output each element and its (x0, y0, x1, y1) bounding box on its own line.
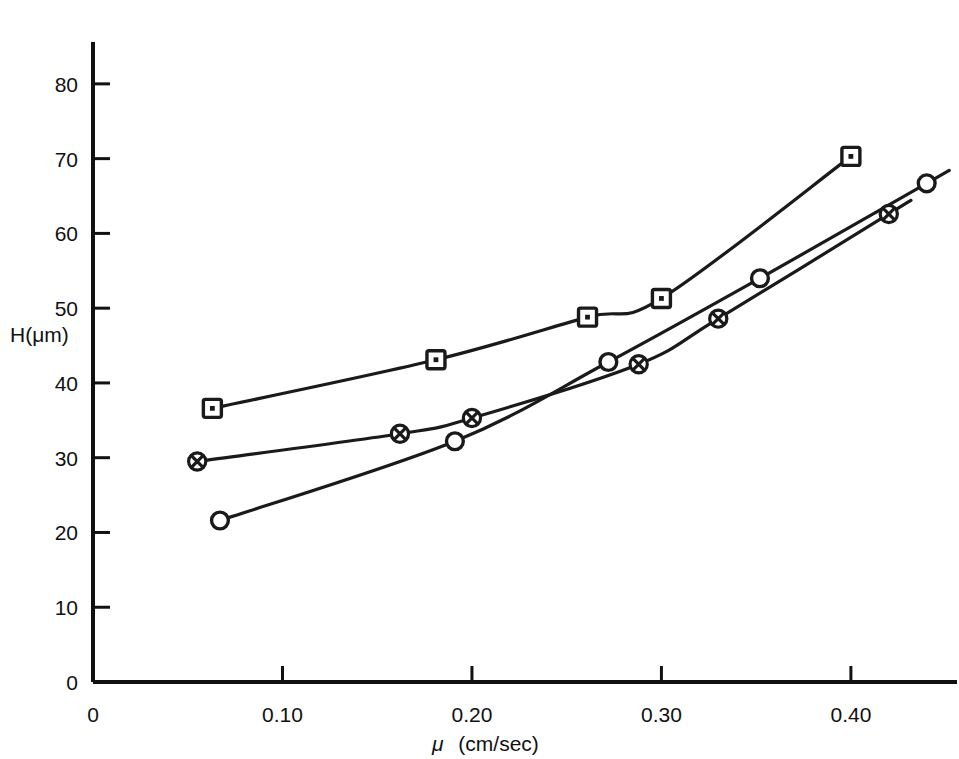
data-point-crossed-circle[interactable] (391, 425, 408, 442)
x-axis-tick-label: 0.30 (641, 703, 682, 726)
y-axis-tick-label: 70 (55, 148, 78, 171)
y-axis-tick-label: 0 (66, 671, 78, 694)
y-axis-tick-label: 30 (55, 447, 78, 470)
data-point-crossed-circle[interactable] (710, 310, 727, 327)
y-axis-tick-label: 40 (55, 372, 78, 395)
data-point-square-dot[interactable] (427, 351, 445, 369)
y-axis-tick-label: 10 (55, 596, 78, 619)
y-axis-tick-label: 80 (55, 73, 78, 96)
data-point-open-circle[interactable] (446, 433, 463, 450)
square-marker-center-dot (210, 406, 215, 411)
open-circle-marker (212, 512, 229, 529)
data-point-open-circle[interactable] (212, 512, 229, 529)
square-marker-center-dot (659, 296, 664, 301)
data-point-square-dot[interactable] (203, 399, 221, 417)
data-point-crossed-circle[interactable] (463, 409, 480, 426)
plot-background (0, 0, 959, 759)
data-point-crossed-circle[interactable] (880, 205, 897, 222)
y-axis-tick-label: 50 (55, 297, 78, 320)
square-marker-center-dot (848, 154, 853, 159)
y-axis-tick-labels: 01020304050607080 (55, 73, 78, 694)
open-circle-marker (446, 433, 463, 450)
y-axis-title: H(μm) (10, 323, 69, 346)
square-marker-center-dot (434, 357, 439, 362)
y-axis-tick-label: 60 (55, 222, 78, 245)
data-point-open-circle[interactable] (600, 354, 617, 371)
x-axis-title: μ (cm/sec) (431, 732, 539, 755)
x-axis-tick-label: 0.40 (830, 703, 871, 726)
data-point-square-dot[interactable] (579, 308, 597, 326)
data-point-crossed-circle[interactable] (630, 356, 647, 373)
x-axis-tick-label: 0 (87, 703, 99, 726)
y-axis-tick-label: 20 (55, 521, 78, 544)
data-point-crossed-circle[interactable] (189, 453, 206, 470)
data-point-square-dot[interactable] (652, 289, 670, 307)
open-circle-marker (918, 175, 935, 192)
data-point-square-dot[interactable] (842, 147, 860, 165)
square-marker-center-dot (585, 315, 590, 320)
x-axis-tick-label: 0.20 (452, 703, 493, 726)
data-point-open-circle[interactable] (752, 270, 769, 287)
data-point-open-circle[interactable] (918, 175, 935, 192)
x-axis-title-symbol: μ (431, 732, 444, 755)
open-circle-marker (752, 270, 769, 287)
chart-figure: 01020304050607080 00.100.200.300.40 H(μm… (0, 0, 959, 759)
x-axis-title-units: (cm/sec) (458, 732, 539, 755)
scatter-plot-canvas: 01020304050607080 00.100.200.300.40 H(μm… (0, 0, 959, 759)
open-circle-marker (600, 354, 617, 371)
x-axis-tick-label: 0.10 (262, 703, 303, 726)
